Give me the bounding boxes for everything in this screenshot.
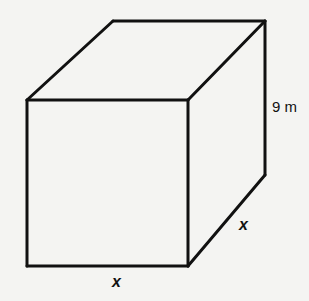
top-right-edge — [188, 21, 265, 100]
prism-diagram: 9 m x x — [0, 0, 309, 301]
bottom-right-depth-edge — [188, 175, 265, 266]
top-left-edge — [27, 21, 113, 100]
depth-label: x — [238, 216, 249, 233]
prism-edges — [27, 21, 265, 266]
height-label: 9 m — [272, 98, 297, 115]
width-label: x — [111, 273, 122, 290]
